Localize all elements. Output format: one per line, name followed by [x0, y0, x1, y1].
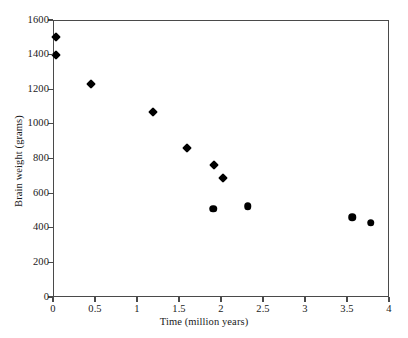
data-point-circle [210, 205, 218, 213]
x-tick-mark [304, 297, 305, 302]
x-tick-mark [262, 297, 263, 302]
x-tick-label: 4 [386, 303, 391, 314]
scatter-chart-figure: 02004006008001000120014001600 00.511.522… [0, 0, 408, 338]
x-tick-mark [220, 297, 221, 302]
y-tick-label: 1600 [28, 15, 49, 26]
y-tick-label: 400 [33, 222, 49, 233]
x-tick-mark [388, 297, 389, 302]
data-point-diamond [148, 107, 158, 117]
y-tick-label: 1000 [28, 118, 49, 129]
data-point-circle [244, 202, 252, 210]
y-tick-label: 0 [44, 292, 49, 303]
x-tick-mark [346, 297, 347, 302]
data-point-diamond [218, 173, 228, 183]
x-tick-label: 1 [134, 303, 139, 314]
x-tick-label: 2.5 [256, 303, 269, 314]
data-point-diamond [209, 160, 219, 170]
data-point-diamond [182, 143, 192, 153]
x-tick-mark [52, 297, 53, 302]
y-tick-label: 200 [33, 257, 49, 268]
x-tick-label: 3 [302, 303, 307, 314]
x-tick-mark [94, 297, 95, 302]
y-axis-title-wrap: Brain weight (grams) [8, 21, 26, 301]
x-tick-label: 1.5 [172, 303, 185, 314]
data-point-diamond [86, 79, 96, 89]
x-tick-label: 2 [218, 303, 223, 314]
data-point-circle [367, 219, 375, 227]
y-tick-label: 1200 [28, 84, 49, 95]
data-point-circle [348, 214, 356, 222]
x-tick-label: 3.5 [340, 303, 353, 314]
x-axis-title: Time (million years) [0, 316, 408, 327]
data-point-diamond [51, 32, 61, 42]
y-tick-label: 1400 [28, 49, 49, 60]
plot-area [53, 20, 389, 297]
y-axis-title: Brain weight (grams) [13, 115, 24, 207]
x-tick-label: 0 [50, 303, 55, 314]
x-tick-mark [178, 297, 179, 302]
x-tick-label: 0.5 [88, 303, 101, 314]
x-tick-mark [136, 297, 137, 302]
y-tick-label: 600 [33, 188, 49, 199]
y-tick-label: 800 [33, 153, 49, 164]
